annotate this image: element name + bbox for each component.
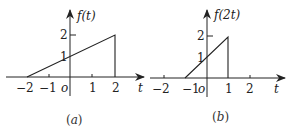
origin-a: o bbox=[61, 81, 68, 95]
ytick-b-1: 1 bbox=[197, 51, 205, 65]
xtick-a-neg2: −2 bbox=[16, 81, 34, 95]
xtick-a-2: 2 bbox=[112, 81, 120, 95]
xtick-a-neg1: −1 bbox=[39, 81, 57, 95]
ylabel-b: f(2t) bbox=[213, 8, 241, 22]
xtick-a-1: 1 bbox=[89, 81, 97, 95]
panel-a: f(t) t o −2 −1 1 2 1 2 (a) bbox=[6, 9, 144, 127]
xtick-b-2: 2 bbox=[246, 82, 254, 96]
ytick-b-2: 2 bbox=[197, 29, 205, 43]
xtick-b-1: 1 bbox=[225, 82, 233, 96]
caption-a: (a) bbox=[66, 113, 83, 127]
ytick-a-2: 2 bbox=[60, 28, 68, 42]
panel-b: f(2t) t o −2 −1 1 2 1 2 (b) bbox=[150, 8, 285, 124]
xtick-b-neg1: −1 bbox=[182, 82, 200, 96]
caption-b: (b) bbox=[212, 110, 229, 124]
ytick-a-1: 1 bbox=[60, 50, 68, 64]
xtick-b-neg2: −2 bbox=[152, 82, 170, 96]
signal-a bbox=[27, 35, 115, 77]
xlabel-a: t bbox=[138, 81, 143, 95]
signal-diagram: f(t) t o −2 −1 1 2 1 2 (a) f(2t) t o −2 … bbox=[0, 0, 297, 133]
ylabel-a: f(t) bbox=[76, 9, 96, 23]
xlabel-b: t bbox=[274, 82, 279, 96]
